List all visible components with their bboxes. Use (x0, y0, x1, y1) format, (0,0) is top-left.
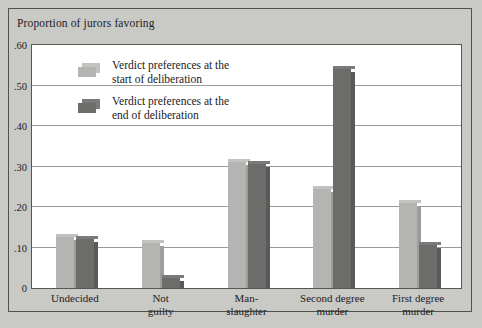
bar (76, 45, 94, 288)
y-tick-label: .40 (14, 121, 27, 132)
bar (56, 45, 74, 288)
x-axis: UndecidedNot guiltyMan- slaughterSecond … (31, 292, 462, 326)
bar-rect (76, 239, 94, 288)
bar-rect (333, 69, 351, 288)
bar-rect (313, 189, 331, 288)
y-axis: 0.10.20.30.40.50.60 (0, 44, 27, 289)
bar (313, 45, 331, 288)
bar (399, 45, 417, 288)
gridline (32, 125, 461, 126)
legend-label: Verdict preferences at the start of deli… (112, 58, 229, 86)
bar-rect (56, 237, 74, 288)
y-tick-label: 0 (22, 283, 27, 294)
bar-rect (399, 203, 417, 288)
y-tick-label: .30 (14, 161, 27, 172)
bar-rect (248, 164, 266, 288)
legend-swatch-icon (78, 99, 100, 113)
bar-rect (419, 245, 437, 288)
chart-figure: Proportion of jurors favoring 0.10.20.30… (0, 0, 482, 328)
plot-area: Verdict preferences at the start of deli… (31, 44, 462, 289)
bar-rect (162, 278, 180, 288)
bar-rect (142, 243, 160, 288)
x-tick-label: Undecided (51, 292, 99, 305)
legend-swatch-icon (78, 63, 100, 77)
y-tick-label: .60 (14, 40, 27, 51)
x-tick-label: Not guilty (148, 292, 174, 318)
y-tick-label: .20 (14, 202, 27, 213)
chart-title: Proportion of jurors favoring (17, 17, 155, 29)
legend-label: Verdict preferences at the end of delibe… (112, 94, 229, 122)
bar (228, 45, 246, 288)
gridline (32, 85, 461, 86)
bar (248, 45, 266, 288)
bar (419, 45, 437, 288)
x-tick-label: Man- slaughter (226, 292, 266, 318)
y-tick-label: .10 (14, 242, 27, 253)
x-tick-label: First degree murder (392, 292, 444, 318)
bar-rect (228, 162, 246, 288)
x-tick-label: Second degree murder (300, 292, 364, 318)
y-tick-label: .50 (14, 80, 27, 91)
bar (333, 45, 351, 288)
